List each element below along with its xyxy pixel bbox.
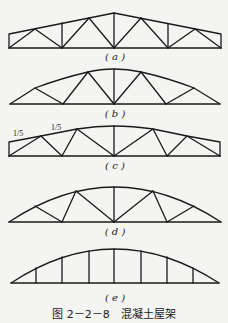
truss-d-label: ( d ) xyxy=(95,226,135,238)
truss-c xyxy=(9,126,220,156)
truss-e-label: ( e ) xyxy=(95,292,135,304)
truss-e xyxy=(11,249,219,283)
figure-caption: 图 2－2－8 混凝土屋架 xyxy=(0,308,228,321)
slope-label-1: 1/5 xyxy=(13,129,23,138)
truss-c-label: ( c ) xyxy=(95,160,135,172)
truss-b-label: ( b ) xyxy=(95,108,135,120)
truss-d xyxy=(9,187,221,222)
figure-canvas: ( a ) ( b ) 1/5 1/5 ( c ) ( d ) ( e ) 图 … xyxy=(0,0,228,323)
truss-a-label: ( a ) xyxy=(95,51,135,63)
truss-b xyxy=(10,69,220,104)
truss-a xyxy=(9,13,221,48)
slope-label-2: 1/5 xyxy=(51,123,61,132)
